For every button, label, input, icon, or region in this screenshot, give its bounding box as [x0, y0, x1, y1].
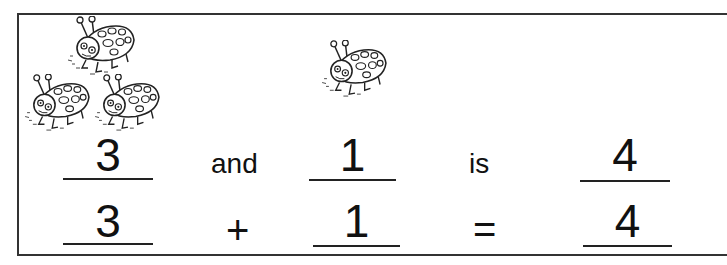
plus-operator: + — [226, 210, 249, 250]
ladybug-icon — [64, 16, 140, 76]
sentence-total: 4 — [580, 132, 670, 178]
answer-line — [63, 178, 153, 180]
sentence-connector: and — [211, 150, 258, 178]
answer-line — [583, 245, 672, 247]
ladybug-icon — [320, 40, 390, 98]
equation-second-addend: 1 — [313, 198, 400, 244]
ladybug-icon — [92, 74, 164, 132]
sentence-first-addend: 3 — [63, 132, 153, 178]
equation-first-addend: 3 — [63, 198, 153, 244]
equals-sign: = — [473, 209, 496, 249]
answer-line — [309, 179, 396, 181]
answer-line — [580, 180, 670, 182]
sentence-verb: is — [469, 150, 489, 178]
answer-line — [313, 245, 400, 247]
equation-total: 4 — [583, 198, 672, 244]
sentence-second-addend: 1 — [309, 132, 396, 178]
ladybug-icon — [22, 74, 94, 132]
answer-line — [63, 243, 153, 245]
